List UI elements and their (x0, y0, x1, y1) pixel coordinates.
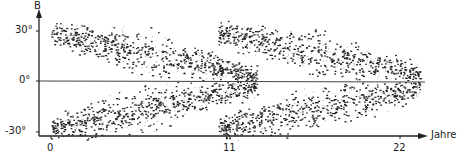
x-axis-label: Jahre (431, 129, 456, 140)
x-axis-arrow-icon (418, 133, 428, 139)
y-tick-label-30: 30° (15, 24, 33, 35)
butterfly-diagram (0, 0, 467, 164)
y-tick-label-0: 0° (19, 74, 30, 85)
equator-line (39, 81, 425, 82)
x-tick-label-11: 11 (223, 142, 236, 153)
y-axis-label: B (34, 0, 41, 11)
y-tick-label-minus30: -30° (5, 125, 26, 136)
x-tick-label-0: 0 (47, 142, 53, 153)
x-tick-label-22: 22 (393, 142, 406, 153)
